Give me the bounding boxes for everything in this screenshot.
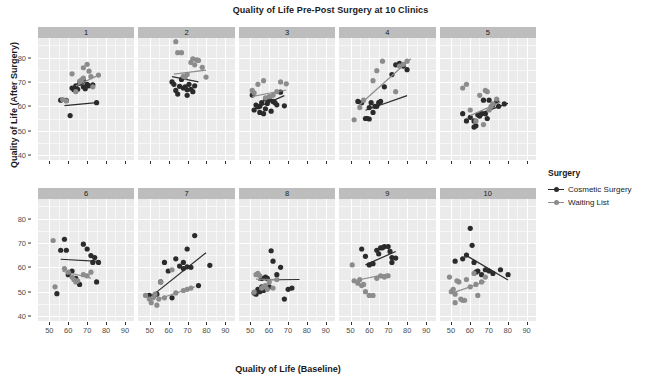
x-axis-tick-mark: [169, 322, 170, 325]
data-point: [278, 79, 283, 84]
data-point: [388, 249, 393, 254]
data-point: [192, 233, 197, 238]
data-point: [386, 244, 391, 249]
data-point: [484, 116, 489, 121]
data-point: [361, 98, 366, 103]
data-point: [51, 238, 56, 243]
data-point: [505, 272, 510, 277]
data-point: [94, 279, 99, 284]
legend-key-cosmetic-surgery: [548, 184, 564, 195]
x-axis-tick-label: 50: [246, 326, 254, 335]
data-point: [460, 111, 465, 116]
x-axis-tick-label: 60: [164, 326, 172, 335]
x-axis-tick-label: 90: [422, 326, 430, 335]
data-point: [446, 274, 451, 279]
x-axis-tick-mark: [388, 322, 389, 325]
x-axis-tick-mark: [407, 322, 408, 325]
data-point: [85, 62, 90, 67]
facet-panel: [239, 38, 335, 160]
data-point: [467, 107, 472, 112]
data-point: [496, 104, 501, 109]
x-axis-tick-mark: [426, 322, 427, 325]
x-axis-tick-mark: [388, 161, 389, 164]
data-point: [263, 106, 268, 111]
data-point: [456, 279, 461, 284]
x-axis-tick-mark: [470, 322, 471, 325]
x-axis-tick-mark: [508, 322, 509, 325]
data-point: [452, 259, 457, 264]
data-point: [81, 242, 86, 247]
facet-strip-label: 2: [138, 27, 234, 38]
data-point: [54, 291, 59, 296]
data-point: [73, 89, 78, 94]
data-point: [257, 273, 262, 278]
data-point: [450, 287, 455, 292]
data-point: [484, 89, 489, 94]
data-point: [179, 50, 184, 55]
data-point: [170, 295, 175, 300]
facet-panel: [38, 38, 134, 160]
x-axis-tick-mark: [451, 322, 452, 325]
data-point: [282, 103, 287, 108]
data-point: [261, 78, 266, 83]
y-axis-tick-label: 80: [0, 214, 26, 223]
data-point: [192, 83, 197, 88]
data-point: [475, 293, 480, 298]
legend-key-waiting-list: [548, 197, 564, 208]
data-point: [490, 101, 495, 106]
x-axis-tick-label: 70: [183, 326, 191, 335]
y-axis-tick-mark: [28, 57, 31, 58]
facet-panel: [38, 199, 134, 321]
y-axis-tick-mark: [28, 155, 31, 156]
data-point: [68, 113, 73, 118]
facet-strip-label: 5: [440, 27, 536, 38]
x-axis-tick-mark: [68, 322, 69, 325]
data-point: [149, 300, 154, 305]
data-point: [62, 237, 67, 242]
data-point: [274, 272, 279, 277]
data-point: [261, 111, 266, 116]
data-point: [371, 78, 376, 83]
data-point: [283, 81, 288, 86]
data-point: [153, 292, 158, 297]
data-point: [278, 265, 283, 270]
y-axis-tick-mark: [28, 291, 31, 292]
x-axis-tick-label: 50: [447, 326, 455, 335]
data-point: [52, 284, 57, 289]
facet-data-layer: [38, 199, 134, 321]
x-axis-tick-label: 80: [503, 326, 511, 335]
x-axis-tick-label: 90: [121, 326, 129, 335]
trend-line: [154, 253, 207, 295]
x-axis-tick-mark: [369, 322, 370, 325]
data-point: [187, 82, 192, 87]
x-axis-tick-label: 70: [485, 326, 493, 335]
data-point: [268, 248, 273, 253]
data-point: [92, 255, 97, 260]
facet-panel: [339, 199, 435, 321]
data-point: [174, 39, 179, 44]
data-point: [480, 98, 485, 103]
data-point: [266, 279, 271, 284]
data-point: [357, 277, 362, 282]
data-point: [473, 118, 478, 123]
data-point: [158, 279, 163, 284]
y-axis-tick-mark: [28, 267, 31, 268]
legend-item-waiting-list[interactable]: Waiting List: [548, 196, 658, 209]
x-axis-tick-label: 70: [83, 326, 91, 335]
facet-data-layer: [440, 38, 536, 160]
data-point: [62, 266, 67, 271]
data-point: [363, 289, 368, 294]
y-axis-tick-label: 40: [0, 151, 26, 160]
data-point: [452, 300, 457, 305]
x-axis-tick-mark: [326, 322, 327, 325]
facet-strip-label: 6: [38, 188, 134, 199]
legend-item-cosmetic-surgery[interactable]: Cosmetic Surgery: [548, 183, 658, 196]
x-axis-tick-mark: [527, 161, 528, 164]
data-point: [200, 65, 205, 70]
data-point: [75, 278, 80, 283]
facet-data-layer: [440, 199, 536, 321]
data-point: [172, 82, 177, 87]
data-point: [208, 263, 213, 268]
x-axis-tick-label: 50: [45, 326, 53, 335]
data-point: [90, 84, 95, 89]
